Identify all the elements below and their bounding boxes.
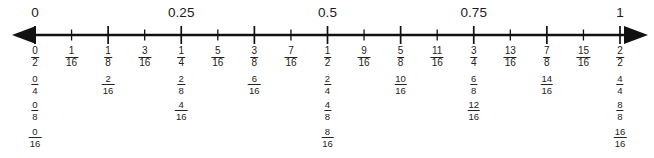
fraction-denominator: 8	[397, 58, 405, 69]
fraction-numerator: 3	[470, 46, 478, 58]
fraction-numerator: 1	[65, 46, 78, 58]
fraction-label: 1416	[541, 74, 554, 95]
number-line-figure: 00.250.50.751 02116183161451638716129165…	[0, 0, 654, 158]
fraction-numerator: 5	[397, 46, 405, 58]
fraction-label: 18	[104, 46, 112, 68]
fraction-label: 22	[616, 46, 624, 68]
fraction-denominator: 2	[324, 58, 332, 69]
fraction-numerator: 3	[251, 46, 259, 58]
decimal-tick-label: 0	[31, 6, 39, 20]
fraction-denominator: 2	[31, 58, 39, 69]
fraction-denominator: 16	[431, 58, 444, 69]
fraction-numerator: 5	[211, 46, 224, 58]
fraction-denominator: 4	[31, 85, 38, 95]
fraction-label: 12	[324, 46, 332, 68]
fraction-denominator: 16	[65, 58, 78, 69]
fraction-denominator: 16	[577, 58, 590, 69]
fraction-denominator: 8	[543, 58, 551, 69]
fraction-label: 716	[284, 46, 297, 68]
fraction-label: 38	[251, 46, 259, 68]
fraction-label: 78	[543, 46, 551, 68]
fraction-label: 216	[102, 74, 115, 95]
fraction-denominator: 8	[470, 85, 477, 95]
fraction-denominator: 16	[284, 58, 297, 69]
fraction-denominator: 16	[614, 138, 627, 148]
fraction-numerator: 1	[324, 46, 332, 58]
tick-marks	[35, 26, 620, 44]
fraction-numerator: 14	[541, 74, 554, 85]
fraction-label: 24	[324, 74, 331, 95]
fraction-denominator: 16	[504, 58, 517, 69]
fraction-label: 016	[29, 127, 42, 148]
fraction-numerator: 7	[543, 46, 551, 58]
fraction-label: 1316	[504, 46, 517, 68]
fraction-denominator: 8	[31, 111, 38, 121]
fraction-label: 28	[178, 74, 185, 95]
fraction-numerator: 16	[614, 127, 627, 138]
fraction-label: 616	[248, 74, 261, 95]
fraction-label: 516	[211, 46, 224, 68]
fraction-denominator: 16	[541, 85, 554, 95]
fraction-denominator: 8	[616, 111, 623, 121]
fraction-denominator: 16	[138, 58, 151, 69]
fraction-denominator: 16	[211, 58, 224, 69]
fraction-numerator: 0	[31, 100, 38, 111]
fraction-numerator: 6	[470, 74, 477, 85]
fraction-numerator: 4	[324, 100, 331, 111]
fraction-denominator: 8	[104, 58, 112, 69]
fraction-label: 416	[175, 100, 188, 121]
fraction-denominator: 16	[467, 111, 480, 121]
fraction-numerator: 3	[138, 46, 151, 58]
fraction-numerator: 1	[104, 46, 112, 58]
fraction-label: 88	[616, 100, 623, 121]
fraction-denominator: 16	[321, 138, 334, 148]
fraction-label: 1616	[614, 127, 627, 148]
fraction-numerator: 2	[616, 46, 624, 58]
fraction-label: 08	[31, 100, 38, 121]
fraction-denominator: 2	[616, 58, 624, 69]
decimal-tick-label: 0.75	[460, 6, 487, 20]
fraction-denominator: 16	[394, 85, 407, 95]
fraction-label: 316	[138, 46, 151, 68]
fraction-numerator: 8	[321, 127, 334, 138]
fraction-denominator: 16	[175, 111, 188, 121]
fraction-label: 1516	[577, 46, 590, 68]
fraction-denominator: 4	[470, 58, 478, 69]
fraction-denominator: 4	[324, 85, 331, 95]
fraction-label: 04	[31, 74, 38, 95]
fraction-denominator: 8	[251, 58, 259, 69]
fraction-denominator: 16	[358, 58, 371, 69]
fraction-numerator: 2	[324, 74, 331, 85]
fraction-label: 68	[470, 74, 477, 95]
decimal-tick-label: 0.25	[168, 6, 195, 20]
fraction-numerator: 8	[616, 100, 623, 111]
fraction-numerator: 0	[29, 127, 42, 138]
right-arrow-icon	[624, 26, 648, 44]
fraction-numerator: 9	[358, 46, 371, 58]
fraction-label: 916	[358, 46, 371, 68]
left-arrow-icon	[12, 26, 36, 44]
fraction-numerator: 0	[31, 74, 38, 85]
fraction-label: 48	[324, 100, 331, 121]
fraction-denominator: 16	[248, 85, 261, 95]
fraction-label: 1116	[431, 46, 444, 68]
fraction-label: 816	[321, 127, 334, 148]
fraction-label: 116	[65, 46, 78, 68]
fraction-numerator: 6	[248, 74, 261, 85]
fraction-label: 34	[470, 46, 478, 68]
fraction-numerator: 15	[577, 46, 590, 58]
fraction-label: 1216	[467, 100, 480, 121]
fraction-numerator: 12	[467, 100, 480, 111]
fraction-denominator: 4	[616, 85, 623, 95]
fraction-label: 14	[177, 46, 185, 68]
fraction-numerator: 13	[504, 46, 517, 58]
fraction-numerator: 4	[175, 100, 188, 111]
fraction-label: 58	[397, 46, 405, 68]
fraction-numerator: 0	[31, 46, 39, 58]
fraction-denominator: 4	[177, 58, 185, 69]
fraction-numerator: 11	[431, 46, 444, 58]
fraction-label: 1016	[394, 74, 407, 95]
fraction-label: 44	[616, 74, 623, 95]
fraction-numerator: 4	[616, 74, 623, 85]
fraction-label: 02	[31, 46, 39, 68]
